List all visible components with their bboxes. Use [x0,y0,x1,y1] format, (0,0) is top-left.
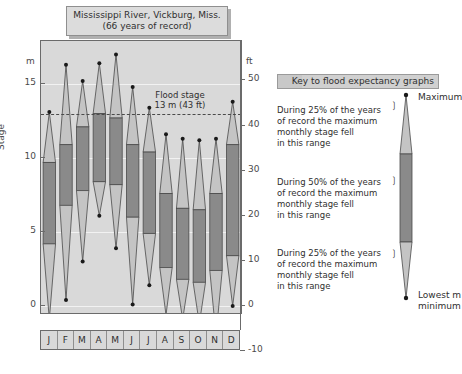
month-cell-october: O [190,331,207,349]
right-tick--10: -10 [248,344,272,354]
legend-block-middle: During 50% of the years of record the ma… [277,177,389,221]
right-tick-0: 0 [248,299,272,309]
left-tick-5: 5 [14,225,36,235]
box-november [210,137,222,313]
left-tick-mark-10 [40,157,45,158]
box-december [226,100,238,308]
box-september [176,137,188,313]
legend-header-text: Key to flood expectancy graphs [292,76,434,86]
legend-block-lower-l1: of record the maximum [277,259,389,270]
legend-block-lower-l2: monthly stage fell [277,270,389,281]
legend-block-upper-l1: of record the maximum [277,116,389,127]
left-tick-10: 10 [14,151,36,161]
right-axis-unit: ft [246,56,253,66]
flood-stage-line1: Flood stage [120,90,240,100]
plot-area [40,40,242,314]
left-tick-0: 0 [14,299,36,309]
left-tick-mark-0 [40,305,45,306]
left-tick-mark-15 [40,83,45,84]
legend-min-label-l2: minimum [418,301,461,312]
box-june [126,85,138,307]
left-axis-unit: m [26,56,35,66]
right-tick-40: 40 [248,119,272,129]
legend-block-upper-l0: During 25% of the years [277,105,389,116]
box-july [143,106,155,288]
right-tick-10: 10 [248,254,272,264]
right-axis-spine [240,40,241,330]
legend-block-middle-l2: monthly stage fell [277,199,389,210]
legend-block-upper-l3: in this range [277,138,389,149]
box-october [193,138,205,313]
month-cell-april: A [91,331,108,349]
box-august [160,132,172,313]
month-cell-may: M [107,331,124,349]
legend-max-label: Maximum [418,92,462,103]
legend-brace-upper: ❳ [390,100,398,110]
right-tick-50: 50 [248,73,272,83]
chart-title-line1: Mississippi River, Vickburg, Miss. [73,10,220,21]
legend-block-lower-l0: During 25% of the years [277,248,389,259]
legend-block-middle-l1: of record the maximum [277,188,389,199]
legend-block-upper-l2: monthly stage fell [277,127,389,138]
legend-min-label-l1: Lowest m [418,290,461,301]
legend-brace-lower: ❳ [390,248,398,258]
left-tick-mark-5 [40,231,45,232]
flood-stage-annotation: Flood stage 13 m (43 ft) [120,90,240,110]
y-axis-title: Stage [0,124,6,150]
right-tick-20: 20 [248,209,272,219]
legend-diamond-svg [398,92,414,301]
legend-block-middle-l0: During 50% of the years [277,177,389,188]
month-cell-july: J [140,331,157,349]
month-axis: JFMAMJJASOND [40,330,240,350]
box-may [110,52,122,250]
legend-diamond [398,92,414,301]
legend-brace-middle: ❳ [390,175,398,185]
month-cell-june: J [124,331,141,349]
box-plot-series [41,41,241,313]
legend-block-lower-l3: in this range [277,281,389,292]
box-april [93,61,105,217]
month-cell-december: D [223,331,239,349]
box-march [76,79,88,264]
legend-block-upper: During 25% of the years of record the ma… [277,105,389,149]
month-cell-september: S [174,331,191,349]
legend-header-bar: Key to flood expectancy graphs [277,74,439,89]
legend-block-lower: During 25% of the years of record the ma… [277,248,389,292]
left-tick-15: 15 [14,77,36,87]
flood-stage-line2: 13 m (43 ft) [120,100,240,110]
legend-block-middle-l3: in this range [277,210,389,221]
month-cell-january: J [41,331,58,349]
right-tick-30: 30 [248,164,272,174]
month-cell-february: F [58,331,75,349]
box-february [60,63,72,302]
month-cell-august: A [157,331,174,349]
plot-inner [41,41,241,313]
chart-title-plaque: Mississippi River, Vickburg, Miss. (66 y… [66,6,228,36]
month-cell-march: M [74,331,91,349]
flood-stage-line [41,114,241,115]
chart-title-line2: (66 years of record) [102,21,191,32]
month-cell-november: N [207,331,224,349]
right-tick-mark--10 [240,350,245,351]
box-january [43,110,55,313]
